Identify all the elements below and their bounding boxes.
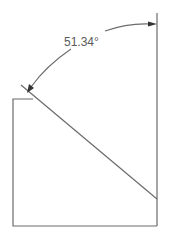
- rectangle-outline: [13, 99, 157, 226]
- dimension-arc-upper: [105, 24, 150, 31]
- dimension-arc-lower: [31, 49, 71, 87]
- angle-label: 51.34°: [64, 35, 99, 49]
- arrowhead-right-icon: [148, 22, 157, 27]
- arrowhead-left-icon: [27, 84, 34, 93]
- angle-diagram: 51.34°: [0, 0, 171, 233]
- diagonal-line: [21, 85, 157, 199]
